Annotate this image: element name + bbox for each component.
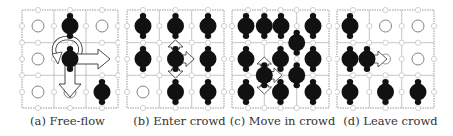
caption-free-flow: (a) Free-flow xyxy=(10,114,125,128)
grid-enter-crowd xyxy=(115,0,230,112)
panel-enter-crowd: (b) Enter crowd xyxy=(115,0,230,136)
moving-agent-icon xyxy=(359,46,376,72)
grid-free-flow xyxy=(0,0,120,112)
caption-move-in-crowd: (c) Move in crowd xyxy=(225,114,340,128)
panel-free-flow: (a) Free-flow xyxy=(0,0,115,136)
empty-cell xyxy=(137,86,149,98)
caption-leave-crowd: (d) Leave crowd xyxy=(333,114,448,128)
panel-move-in-crowd: (c) Move in crowd xyxy=(225,0,337,136)
grid-move-in-crowd xyxy=(225,0,337,112)
moving-agent-icon xyxy=(167,46,184,72)
agent-icon xyxy=(238,13,322,105)
caption-enter-crowd: (b) Enter crowd xyxy=(122,114,237,128)
panel-leave-crowd: (d) Leave crowd xyxy=(335,0,453,136)
moving-agent-icon xyxy=(256,62,273,88)
grid-leave-crowd xyxy=(335,0,453,112)
moving-agent-icon xyxy=(62,46,79,72)
